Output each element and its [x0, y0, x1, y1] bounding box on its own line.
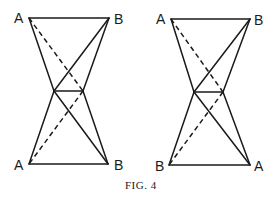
- left-dashed-top: [29, 18, 83, 91]
- left-dashed-bottom: [29, 91, 83, 164]
- left-side-lower-left: [29, 91, 54, 164]
- left-diagonal-top: [54, 18, 109, 91]
- right-dashed-bottom: [169, 92, 223, 165]
- right-dashed-top: [171, 19, 223, 92]
- right-label-bottom-right: A: [254, 158, 264, 174]
- figure-4-diagram: A B A B A B B A FIG. 4: [0, 0, 279, 201]
- left-diagonal-bottom: [54, 91, 108, 164]
- left-side-upper-left: [29, 18, 54, 91]
- right-label-top-right: B: [254, 12, 263, 28]
- figure-caption: FIG. 4: [125, 179, 157, 191]
- left-side-upper-right: [83, 18, 109, 91]
- right-label-bottom-left: B: [155, 158, 164, 174]
- left-label-top-right: B: [114, 11, 123, 27]
- left-side-lower-right: [83, 91, 108, 164]
- right-diagonal-bottom: [194, 92, 250, 165]
- left-figure: A B A B: [14, 10, 123, 173]
- right-label-top-left: A: [156, 11, 166, 27]
- left-label-top-left: A: [14, 10, 24, 26]
- right-side-lower-right: [223, 92, 250, 165]
- right-side-upper-left: [171, 19, 194, 92]
- left-label-bottom-right: B: [114, 157, 123, 173]
- right-side-lower-left: [169, 92, 194, 165]
- right-diagonal-top: [194, 19, 250, 92]
- right-side-upper-right: [223, 19, 250, 92]
- left-label-bottom-left: A: [14, 157, 24, 173]
- right-figure: A B B A: [155, 11, 264, 174]
